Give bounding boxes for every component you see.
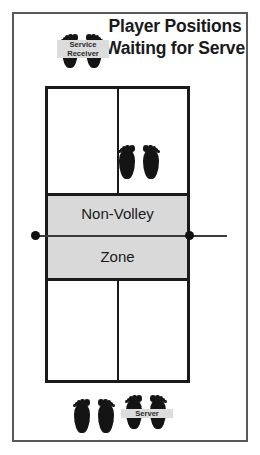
net-post-left — [31, 231, 40, 240]
footprint-sole — [74, 403, 90, 433]
net-post-right — [185, 231, 194, 240]
diagram-title: Player Positions Waiting for Serve — [100, 15, 250, 59]
footprint-right — [143, 145, 159, 179]
near-service-courts — [48, 281, 187, 380]
receiver-partner-footprints-icon — [117, 137, 163, 183]
diagram-header: Service Receiver Player Positions Waitin… — [14, 14, 246, 76]
server-partner-footprints-icon — [72, 393, 118, 439]
service-receiver-label-line-1: Service — [57, 40, 109, 49]
server-label: Server — [121, 409, 173, 418]
service-receiver-label: Service Receiver — [57, 40, 109, 58]
footprint-left — [119, 145, 135, 179]
footprint-sole — [119, 149, 135, 179]
non-volley-zone-label-lower: Zone — [48, 248, 187, 266]
title-line-1: Player Positions — [100, 15, 250, 37]
footprint-sole — [98, 403, 114, 433]
near-centre-line — [117, 281, 119, 380]
net-line — [33, 235, 227, 237]
pickleball-player-positions-diagram: Service Receiver Player Positions Waitin… — [0, 0, 260, 455]
server-footprints-icon: Server — [124, 389, 170, 435]
service-receiver-label-line-2: Receiver — [57, 49, 109, 58]
title-line-2: Waiting for Serve — [100, 37, 250, 59]
non-volley-zone: Non-Volley Zone — [48, 193, 187, 281]
footprint-right — [98, 399, 114, 433]
footprint-sole — [143, 149, 159, 179]
footprint-left — [74, 399, 90, 433]
non-volley-zone-label-upper: Non-Volley — [48, 205, 187, 223]
